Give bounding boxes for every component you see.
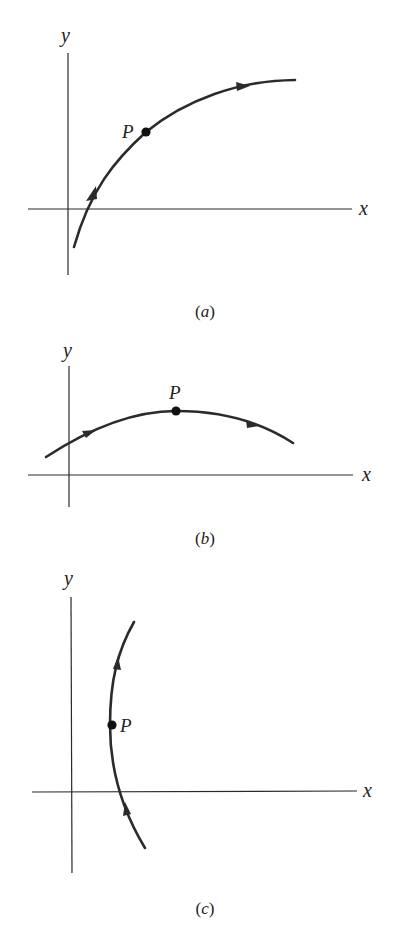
- curve: [46, 411, 293, 457]
- caption-a: (a): [0, 302, 410, 322]
- caption-c: (c): [0, 899, 410, 919]
- panel-c: y x P: [32, 567, 372, 873]
- panel-a: y x P: [28, 24, 368, 275]
- y-axis-label: y: [59, 24, 70, 47]
- x-axis-label: x: [358, 197, 368, 219]
- point-p: [141, 127, 150, 136]
- caption-b: (b): [0, 529, 410, 549]
- point-p-label: P: [121, 121, 134, 142]
- caption-b-letter: b: [201, 529, 210, 548]
- arrow-icon: [86, 186, 97, 201]
- arrow-icon: [82, 430, 96, 438]
- x-axis-label: x: [361, 463, 371, 485]
- figure-canvas: y x P y x P y x P: [0, 0, 410, 935]
- arrow-icon: [236, 82, 250, 91]
- x-axis: [32, 791, 357, 792]
- point-p: [107, 720, 116, 729]
- caption-c-letter: c: [201, 899, 209, 918]
- point-p-label: P: [168, 382, 181, 403]
- caption-a-letter: a: [201, 302, 210, 321]
- point-p-label: P: [119, 715, 132, 736]
- arrow-icon: [113, 656, 121, 670]
- curve: [74, 80, 295, 247]
- point-p: [171, 406, 180, 415]
- y-axis: [71, 597, 72, 873]
- panel-b: y x P: [28, 339, 371, 507]
- y-axis-label: y: [62, 567, 73, 590]
- x-axis-label: x: [362, 779, 372, 801]
- y-axis-label: y: [61, 339, 72, 362]
